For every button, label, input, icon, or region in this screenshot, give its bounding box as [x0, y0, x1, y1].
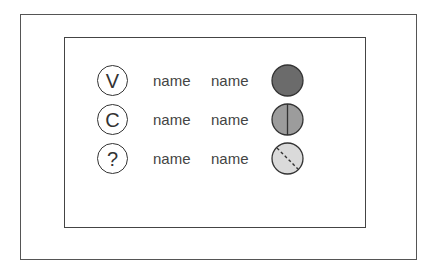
- list-item: C name name: [0, 103, 438, 137]
- solid-circle-icon: [271, 64, 304, 97]
- list-item: V name name: [0, 64, 438, 98]
- name-label: name: [211, 111, 249, 128]
- name-label: name: [211, 72, 249, 89]
- name-label: name: [153, 72, 191, 89]
- split-circle-icon: [271, 103, 304, 136]
- name-label: name: [211, 150, 249, 167]
- list-item: ? name name: [0, 142, 438, 176]
- name-label: name: [153, 150, 191, 167]
- dashed-circle-icon: [271, 142, 304, 175]
- symbol-circle-question: ?: [97, 143, 128, 174]
- symbol-circle-v: V: [97, 65, 128, 96]
- symbol-circle-c: C: [97, 104, 128, 135]
- name-label: name: [153, 111, 191, 128]
